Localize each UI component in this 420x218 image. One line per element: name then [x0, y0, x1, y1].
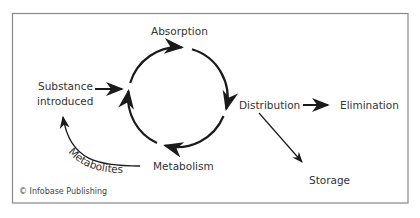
label-substance-line2: introduced	[37, 95, 93, 107]
label-metabolites: Metabolites	[67, 145, 124, 175]
credit-text: © Infobase Publishing	[19, 187, 107, 196]
label-storage: Storage	[309, 174, 350, 186]
arc-to-metabolism	[165, 116, 224, 147]
cycle-arcs	[128, 47, 228, 147]
label-absorption: Absorption	[151, 25, 208, 37]
label-elimination: Elimination	[340, 99, 399, 111]
arrow-distribution-to-storage	[259, 113, 302, 162]
label-metabolites-path: Metabolites	[67, 145, 124, 175]
label-metabolism: Metabolism	[153, 160, 214, 172]
arc-to-substance	[128, 91, 157, 143]
label-distribution: Distribution	[239, 99, 300, 111]
label-substance-line1: Substance	[38, 80, 93, 92]
toxicokinetics-diagram: Absorption Substance introduced Distribu…	[0, 0, 420, 218]
arc-to-absorption	[130, 47, 182, 83]
arc-to-distribution	[192, 49, 228, 109]
